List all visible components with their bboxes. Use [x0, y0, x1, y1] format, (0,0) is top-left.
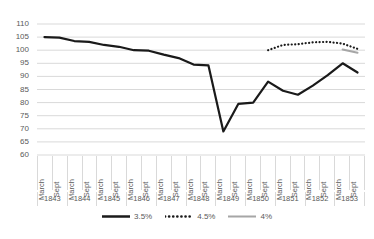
y-axis-tick: 65 — [20, 138, 29, 146]
legend-item[interactable]: 4.5% — [165, 212, 215, 221]
y-axis-tick: 60 — [20, 151, 29, 159]
line-chart: 1101051009590858075706560 MarchSeptMarch… — [0, 0, 374, 239]
chart-legend: 3.5%4.5%4% — [0, 212, 374, 221]
x-axis-month-cell: Sept — [319, 156, 334, 190]
y-axis-tick: 90 — [20, 72, 29, 80]
x-axis-year-label: 1850 — [245, 192, 275, 206]
plot-svg — [37, 24, 365, 155]
x-axis-month-cell: Sept — [349, 156, 365, 190]
x-axis-year-label: 1845 — [96, 192, 126, 206]
x-axis-year-label: 1853 — [334, 192, 365, 206]
x-axis-year-label: 1849 — [215, 192, 245, 206]
x-axis-year-label: 1847 — [156, 192, 186, 206]
legend-item[interactable]: 3.5% — [102, 212, 152, 221]
x-axis-month-cell: March — [126, 156, 141, 190]
x-axis-year-label: 1844 — [67, 192, 97, 206]
x-axis-years: 1843184418451846184718481849185018511852… — [37, 192, 365, 206]
x-axis-month-cell: Sept — [111, 156, 126, 190]
x-axis-month-cell: March — [304, 156, 319, 190]
x-axis-month-cell: Sept — [82, 156, 97, 190]
x-axis-month-cell: March — [186, 156, 201, 190]
plot-area — [37, 24, 365, 155]
x-axis-month-cell: March — [96, 156, 111, 190]
x-axis-year-label: 1843 — [37, 192, 67, 206]
legend-label: 4% — [260, 213, 272, 221]
x-axis-month-cell: Sept — [171, 156, 186, 190]
x-axis-year-label: 1851 — [275, 192, 305, 206]
y-axis: 1101051009590858075706560 — [0, 24, 33, 155]
y-axis-tick: 85 — [20, 86, 29, 94]
x-axis-month-cell: March — [67, 156, 82, 190]
legend-swatch-icon — [228, 212, 256, 221]
x-axis-month-cell: Sept — [260, 156, 275, 190]
legend-item[interactable]: 4% — [228, 212, 272, 221]
x-axis-month-cell: March — [245, 156, 260, 190]
x-axis-month-cell: Sept — [52, 156, 67, 190]
y-axis-tick: 75 — [20, 112, 29, 120]
y-axis-tick: 110 — [16, 20, 29, 28]
x-axis-month-cell: Sept — [230, 156, 245, 190]
legend-swatch-icon — [165, 212, 193, 221]
y-axis-tick: 105 — [16, 33, 29, 41]
x-axis-month-cell: March — [156, 156, 171, 190]
x-axis-year-label: 1852 — [305, 192, 335, 206]
y-axis-tick: 70 — [20, 125, 29, 133]
x-axis-month-cell: March — [334, 156, 349, 190]
y-axis-tick: 100 — [16, 46, 29, 54]
legend-label: 3.5% — [134, 213, 152, 221]
x-axis-month-cell: Sept — [200, 156, 215, 190]
legend-label: 4.5% — [197, 213, 215, 221]
series-line-35 — [44, 37, 357, 131]
x-axis-month-cell: March — [275, 156, 290, 190]
x-axis-year-label: 1848 — [186, 192, 216, 206]
y-axis-tick: 80 — [20, 99, 29, 107]
x-axis-year-label: 1846 — [126, 192, 156, 206]
x-axis-month-cell: Sept — [290, 156, 305, 190]
x-axis-month-cell: March — [215, 156, 230, 190]
legend-swatch-icon — [102, 212, 130, 221]
x-axis-month-cell: Sept — [141, 156, 156, 190]
x-axis-month-cell: March — [37, 156, 52, 190]
y-axis-tick: 95 — [20, 59, 29, 67]
